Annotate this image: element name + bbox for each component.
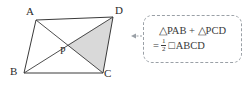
geometry-figure-screen: A D B C P △PAB + △PCD = 1 2 □ ABCD <box>0 0 248 87</box>
vertex-label-c: C <box>104 68 111 79</box>
formula-callout-box: △PAB + △PCD = 1 2 □ ABCD <box>143 15 242 63</box>
formula-line-1: △PAB + △PCD <box>159 25 226 37</box>
vertex-label-p: P <box>60 46 66 56</box>
equals-sign: = <box>153 40 159 52</box>
formula-line-2: = 1 2 □ ABCD <box>153 38 205 53</box>
fraction-one-half: 1 2 <box>161 38 167 53</box>
shaded-triangle-pdc <box>67 17 113 73</box>
formula-shape-name: ABCD <box>176 40 205 52</box>
vertex-label-d: D <box>115 5 123 16</box>
fraction-denominator: 2 <box>161 45 167 53</box>
square-symbol-icon: □ <box>168 40 174 52</box>
fraction-numerator: 1 <box>161 38 167 45</box>
vertex-label-a: A <box>26 6 34 17</box>
vertex-label-b: B <box>10 66 17 77</box>
callout-connector-arrow <box>131 34 142 39</box>
